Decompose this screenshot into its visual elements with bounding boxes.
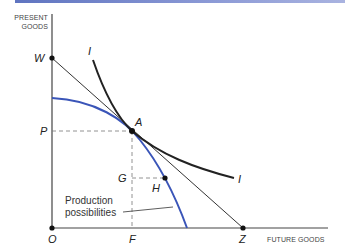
label-indifference-top: I [88, 45, 91, 57]
label-p: P [40, 125, 48, 137]
production-possibilities-diagram: PRESENT GOODS FUTURE GOODS W P A G H O F… [0, 0, 345, 250]
label-z: Z [238, 233, 247, 245]
point-w [49, 55, 54, 60]
label-indifference-bottom: I [238, 173, 241, 185]
point-h [162, 175, 167, 180]
point-o [49, 225, 54, 230]
label-o: O [48, 233, 57, 245]
point-z [240, 225, 245, 230]
y-axis-label-line2: GOODS [21, 23, 48, 30]
label-h: H [152, 182, 160, 194]
label-production-line1: Production [65, 195, 113, 206]
label-a: A [134, 116, 142, 128]
label-w: W [34, 52, 46, 64]
y-axis-label-line1: PRESENT [14, 14, 48, 21]
production-label-leader [123, 207, 173, 212]
label-f: F [129, 233, 137, 245]
label-g: G [118, 172, 127, 184]
indifference-curve [93, 60, 234, 178]
label-production-line2: possibilities [65, 207, 116, 218]
point-a [129, 128, 135, 134]
x-axis-label: FUTURE GOODS [267, 236, 325, 243]
